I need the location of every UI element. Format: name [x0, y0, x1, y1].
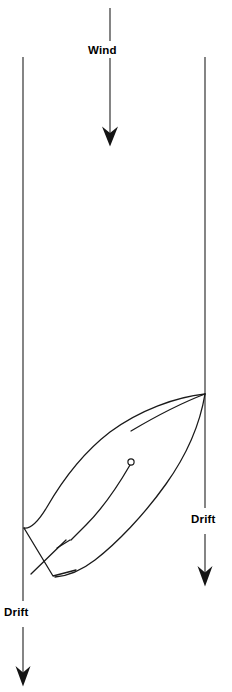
diagram-canvas: Wind Drift Drift [0, 0, 232, 692]
boat-hull-starboard-side [55, 394, 205, 577]
drift-left-label-group: Drift [3, 603, 43, 620]
boat-hull-port-side [24, 394, 205, 528]
drift-left-label: Drift [4, 606, 29, 618]
drift-arrow-left [16, 57, 31, 687]
wind-label-group: Wind [86, 41, 126, 58]
leeway-diagram-svg: Wind Drift Drift [0, 0, 232, 692]
drift-right-label: Drift [191, 513, 216, 525]
drift-arrow-right [198, 57, 213, 587]
boat-transom [24, 528, 76, 576]
boat-mast-ring [128, 459, 134, 465]
wind-label: Wind [88, 44, 117, 56]
boat-cockpit-stub [57, 540, 70, 548]
drift-right-label-group: Drift [190, 510, 230, 527]
boat-boom-line [71, 465, 130, 540]
wind-arrow [102, 8, 118, 147]
sailboat [24, 394, 205, 577]
